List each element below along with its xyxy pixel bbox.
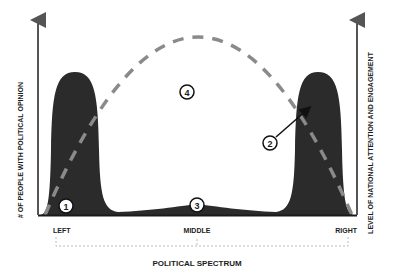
spectrum-bracket <box>56 237 348 246</box>
marker-3: 3 <box>190 198 204 212</box>
x-axis-title: POLITICAL SPECTRUM <box>152 259 242 268</box>
x-tick-middle: MIDDLE <box>184 227 211 234</box>
opinion-distribution-area <box>40 72 354 215</box>
marker-4-label: 4 <box>184 88 189 98</box>
marker-1-label: 1 <box>63 202 68 212</box>
political-spectrum-diagram: # OF PEOPLE WITH POLITICAL OPINION LEVEL… <box>0 0 395 277</box>
right-axis-label: LEVEL OF NATIONAL ATTENTION AND ENGAGEME… <box>367 51 374 233</box>
marker-2: 2 <box>263 136 277 150</box>
left-axis-label: # OF PEOPLE WITH POLITICAL OPINION <box>17 82 24 218</box>
marker-4: 4 <box>180 85 194 99</box>
marker-3-label: 3 <box>194 201 199 211</box>
marker-1: 1 <box>59 199 73 213</box>
marker-2-label: 2 <box>267 139 272 149</box>
x-tick-right: RIGHT <box>335 227 358 234</box>
x-tick-left: LEFT <box>53 227 71 234</box>
